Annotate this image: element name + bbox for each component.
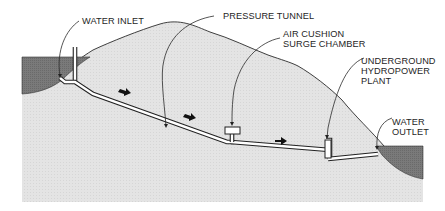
label-water-inlet: WATER INLET [82, 16, 144, 26]
label-pressure-tunnel: PRESSURE TUNNEL [223, 11, 314, 21]
label-plant-1: UNDERGROUND [361, 56, 436, 66]
label-air-cushion-2: SURGE CHAMBER [283, 39, 366, 49]
diagram-canvas: WATER INLET PRESSURE TUNNEL AIR CUSHION … [0, 0, 445, 211]
hydropower-plant [325, 140, 331, 158]
label-plant-3: PLANT [361, 76, 391, 86]
label-outlet-1: WATER [392, 117, 425, 127]
label-air-cushion-1: AIR CUSHION [283, 29, 344, 39]
label-plant-2: HYDROPOWER [361, 66, 430, 76]
label-outlet-2: OUTLET [392, 127, 429, 137]
hydropower-cross-section: WATER INLET PRESSURE TUNNEL AIR CUSHION … [0, 0, 445, 211]
